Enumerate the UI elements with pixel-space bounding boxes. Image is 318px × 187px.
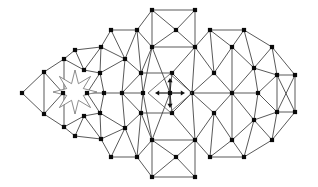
mesh-node xyxy=(150,45,154,49)
mesh-node xyxy=(174,155,178,159)
mesh-node xyxy=(62,125,66,129)
mesh-node xyxy=(208,155,212,159)
mesh-node xyxy=(174,28,178,32)
mesh-node xyxy=(98,111,102,115)
mesh-node xyxy=(139,71,143,75)
mesh-node xyxy=(139,111,143,115)
mesh-node xyxy=(256,91,260,95)
star-void-layer xyxy=(53,70,97,114)
mesh-node xyxy=(99,137,103,141)
mesh-node xyxy=(275,73,279,77)
mesh-node xyxy=(193,138,197,142)
mesh-node xyxy=(135,28,139,32)
mesh-node xyxy=(135,155,139,159)
mesh-canvas xyxy=(0,0,318,187)
eight-pointed-star-void-icon xyxy=(53,70,97,114)
mesh-node xyxy=(85,91,89,95)
mesh-node xyxy=(230,138,234,142)
mesh-node xyxy=(61,91,65,95)
mesh-node xyxy=(73,134,77,138)
mesh-node xyxy=(150,175,154,179)
mesh-node xyxy=(193,8,197,12)
mesh-node xyxy=(141,91,145,95)
mesh-node xyxy=(62,57,66,61)
mesh-figure xyxy=(0,0,318,187)
mesh-node xyxy=(123,126,127,130)
mesh-node xyxy=(270,45,274,49)
mesh-node xyxy=(42,112,46,116)
mesh-node xyxy=(293,73,297,77)
mesh-node xyxy=(102,91,106,95)
mesh-node xyxy=(242,155,246,159)
mesh-node xyxy=(252,66,256,70)
mesh-node xyxy=(193,175,197,179)
mesh-node xyxy=(150,138,154,142)
mesh-node xyxy=(212,71,216,75)
mesh-node xyxy=(293,110,297,114)
mesh-node xyxy=(150,8,154,12)
mesh-node xyxy=(73,48,77,52)
mesh-node xyxy=(230,45,234,49)
mesh-node xyxy=(82,68,86,72)
mesh-node xyxy=(230,91,234,95)
mesh-node xyxy=(42,70,46,74)
mesh-node xyxy=(242,28,246,32)
mesh-node xyxy=(98,71,102,75)
mesh-node xyxy=(270,138,274,142)
mesh-node xyxy=(99,45,103,49)
mesh-node xyxy=(275,110,279,114)
mesh-node xyxy=(252,118,256,122)
mesh-node xyxy=(123,57,127,61)
mesh-node xyxy=(212,111,216,115)
mesh-node xyxy=(109,155,113,159)
mesh-node xyxy=(208,28,212,32)
mesh-node xyxy=(109,28,113,32)
mesh-node xyxy=(20,91,24,95)
mesh-node xyxy=(193,45,197,49)
mesh-node xyxy=(82,114,86,118)
mesh-node xyxy=(120,91,124,95)
